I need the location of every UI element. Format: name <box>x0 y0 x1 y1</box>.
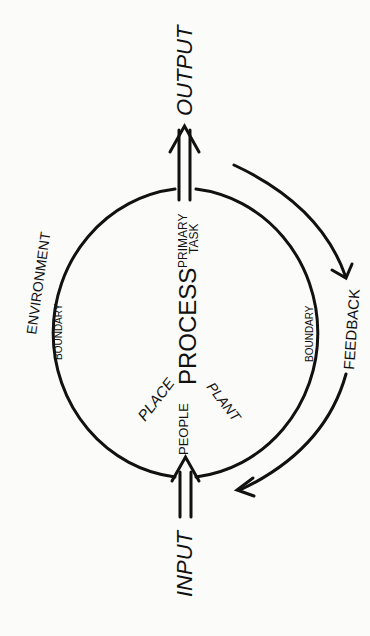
place-label: PLACE <box>134 374 178 424</box>
feedback-arrow-lower <box>237 374 346 496</box>
boundary-circle-right-arc <box>196 189 318 477</box>
output-label: OUTPUT <box>172 24 197 116</box>
input-double-arrow <box>172 457 199 517</box>
environment-label: ENVIRONMENT <box>23 230 53 335</box>
people-label: PEOPLE <box>176 403 191 455</box>
plant-label: PLANT <box>204 379 245 426</box>
boundary-circle-left-arc <box>53 189 175 477</box>
task-label: TASK <box>187 224 201 254</box>
input-label: INPUT <box>172 529 197 597</box>
boundary-right-label: BOUNDARY <box>304 305 315 362</box>
boundary-left-label: BOUNDARY <box>53 303 64 360</box>
process-label: PROCESS <box>174 268 201 385</box>
feedback-label: FEEDBACK <box>340 288 363 370</box>
process-system-diagram: OUTPUT INPUT PROCESS PRIMARY TASK PEOPLE… <box>0 0 370 636</box>
feedback-arrow-upper <box>234 165 352 278</box>
